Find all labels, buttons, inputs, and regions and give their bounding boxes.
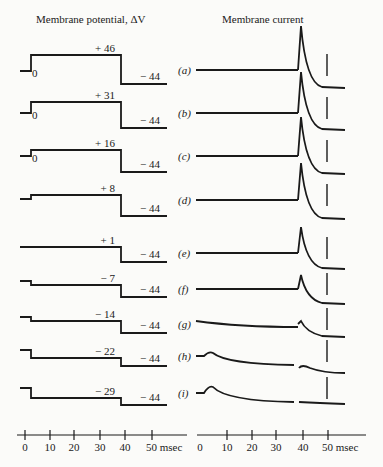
test-potential-label: + 46 xyxy=(95,42,115,54)
test-potential-label: − 29 xyxy=(95,385,115,397)
row-label: (f) xyxy=(178,283,189,296)
test-potential-label: + 8 xyxy=(101,182,116,194)
holding-zero-label: 0 xyxy=(32,67,38,79)
current-tail xyxy=(298,26,345,88)
row-label: (i) xyxy=(178,387,189,400)
final-potential-label: − 44 xyxy=(140,352,160,364)
holding-zero-label: 0 xyxy=(32,152,38,164)
current-tail xyxy=(299,366,345,373)
test-potential-label: + 31 xyxy=(95,89,115,101)
test-potential-label: − 22 xyxy=(95,345,115,357)
current-tail xyxy=(298,72,345,130)
tick-label: 40 xyxy=(298,441,310,453)
row-label: (d) xyxy=(178,194,191,207)
tick-label: 30 xyxy=(95,441,107,453)
current-tail xyxy=(298,227,345,269)
final-potential-label: − 44 xyxy=(140,202,160,214)
tick-label: 50 msec xyxy=(146,441,182,453)
final-potential-label: − 44 xyxy=(140,283,160,295)
final-potential-label: − 44 xyxy=(140,70,160,82)
row-label: (g) xyxy=(178,318,191,331)
row-label: (a) xyxy=(178,64,191,77)
row-label: (e) xyxy=(178,247,191,260)
row-label: (b) xyxy=(178,107,191,120)
current-tail xyxy=(298,117,345,174)
current-tail xyxy=(299,402,345,404)
current-baseline xyxy=(196,321,298,327)
tick-label: 10 xyxy=(222,441,234,453)
tick-label: 40 xyxy=(120,441,132,453)
final-potential-label: − 44 xyxy=(140,114,160,126)
current-baseline xyxy=(196,387,294,402)
tick-label: 0 xyxy=(22,441,28,453)
test-potential-label: + 1 xyxy=(101,234,115,246)
final-potential-label: − 44 xyxy=(140,319,160,331)
row-label: (c) xyxy=(178,150,191,163)
tick-label: 30 xyxy=(271,441,283,453)
test-potential-label: + 16 xyxy=(95,137,115,149)
tick-label: 50 msec xyxy=(322,441,358,453)
tick-label: 10 xyxy=(45,441,57,453)
tick-label: 20 xyxy=(69,441,81,453)
figure: + 46− 440(a)+ 31− 440(b)+ 16− 440(c)+ 8−… xyxy=(0,0,383,467)
current-tail xyxy=(298,163,345,219)
tick-label: 20 xyxy=(247,441,259,453)
final-potential-label: − 44 xyxy=(140,391,160,403)
test-potential-label: − 14 xyxy=(95,308,115,320)
tick-label: 0 xyxy=(197,441,203,453)
test-potential-label: − 7 xyxy=(101,272,116,284)
row-label: (h) xyxy=(178,350,191,363)
current-baseline xyxy=(196,352,294,365)
final-potential-label: − 44 xyxy=(140,158,160,170)
current-tail xyxy=(298,275,345,304)
holding-zero-label: 0 xyxy=(32,109,38,121)
final-potential-label: − 44 xyxy=(140,248,160,260)
current-tail xyxy=(298,321,345,337)
